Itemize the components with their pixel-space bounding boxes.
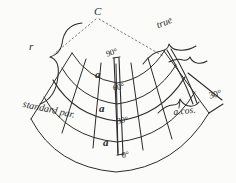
spacing-label-30-0: a (103, 137, 109, 148)
apex-label-c: C (94, 6, 101, 17)
spacing-strip (114, 58, 123, 155)
spacing-label-90-60: a (95, 69, 101, 80)
radius-label-r: r (29, 41, 33, 52)
parallel-label-0: 0° (121, 150, 129, 159)
parallel-label-30: 30° (116, 115, 129, 125)
spacing-label-60-30: a (99, 103, 105, 114)
parallel-label-60: 60° (112, 82, 125, 93)
conic-projection-diagram: C r true standard par. a.cos. 30° 90° 60… (0, 0, 236, 183)
